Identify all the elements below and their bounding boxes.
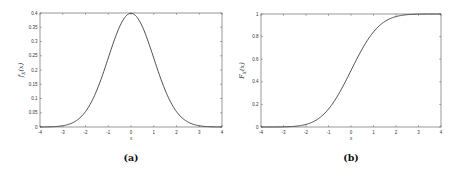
- plot-b-ytick-label: 1: [256, 12, 259, 17]
- plot-b-xtick-label: 2: [395, 130, 398, 135]
- plot-a-xtick-label: 2: [175, 130, 178, 135]
- plot-a-pdf: -4-3-2-10123400.050.10.150.20.250.30.350…: [17, 11, 224, 163]
- plot-b-xtick-label: 1: [372, 130, 375, 135]
- plot-a-xtick-label: -3: [61, 130, 65, 135]
- plot-a-ytick-label: 0.4: [31, 11, 38, 16]
- plot-a-xtick-label: -4: [38, 130, 42, 135]
- plot-b-xtick-label: -3: [281, 130, 285, 135]
- plot-a-xtick-label: 1: [152, 130, 155, 135]
- plot-a-ytick-label: 0.15: [29, 82, 38, 87]
- plot-a-xtick-label: 0: [130, 130, 133, 135]
- plot-b-xtick-label: 4: [440, 130, 443, 135]
- plot-b-ytick-label: 0.8: [252, 34, 259, 39]
- plot-a-ytick-label: 0.05: [29, 110, 38, 115]
- plot-b-xlabel: x: [350, 136, 353, 141]
- plot-a-ytick-label: 0.1: [31, 96, 38, 101]
- plot-b-xtick-label: 3: [417, 130, 420, 135]
- plot-a-xtick-label: 3: [198, 130, 201, 135]
- plot-a-xtick-label: -1: [106, 130, 110, 135]
- plot-b-ytick-label: 0.4: [252, 79, 259, 84]
- plot-b-ytick-label: 0.6: [252, 57, 259, 62]
- plot-b-cdf: -4-3-2-10123400.20.40.60.81xFX(x)(b): [238, 12, 443, 163]
- plot-a-ylabel: fX(x): [17, 62, 26, 78]
- plot-a-caption: (a): [123, 152, 138, 163]
- plot-a-curve: [40, 13, 222, 127]
- plot-b-caption: (b): [343, 152, 359, 163]
- plot-b-ylabel: FX(x): [238, 62, 247, 80]
- plot-a-ytick-label: 0.35: [29, 25, 38, 30]
- plot-a-ytick-label: 0.25: [29, 53, 38, 58]
- plot-b-xtick-label: -1: [326, 130, 330, 135]
- plot-b-xtick-label: -2: [304, 130, 308, 135]
- plot-a-xtick-label: -2: [83, 130, 87, 135]
- plot-b-ytick-label: 0.2: [252, 102, 259, 107]
- figure: -4-3-2-10123400.050.10.150.20.250.30.350…: [0, 0, 460, 173]
- plot-a-xlabel: x: [130, 136, 133, 141]
- plot-b-xtick-label: 0: [350, 130, 353, 135]
- plot-b-xtick-label: -4: [259, 130, 263, 135]
- plot-a-ytick-label: 0.2: [31, 68, 38, 73]
- plot-b-curve: [261, 14, 441, 127]
- plot-a-axes-frame: [40, 13, 222, 127]
- plot-a-xtick-label: 4: [221, 130, 224, 135]
- plot-a-ytick-label: 0.3: [31, 39, 38, 44]
